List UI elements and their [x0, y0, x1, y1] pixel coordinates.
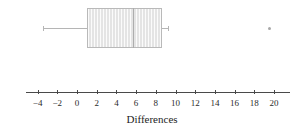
- x-axis-tick: [274, 90, 275, 94]
- x-axis-tick: [116, 90, 117, 94]
- x-axis-tick: [254, 90, 255, 94]
- x-axis-tick: [77, 90, 78, 94]
- x-axis-tick-label: 20: [270, 98, 279, 108]
- x-axis-tick-label: 6: [134, 98, 139, 108]
- x-axis-tick-label: 12: [191, 98, 200, 108]
- x-axis-tick: [57, 90, 58, 94]
- x-axis-tick: [195, 90, 196, 94]
- median-line: [133, 8, 134, 48]
- x-axis-tick: [136, 90, 137, 94]
- x-axis-tick-label: 18: [250, 98, 259, 108]
- outlier-point: [268, 27, 271, 30]
- box-iqr: [87, 8, 162, 48]
- x-axis-line: [26, 92, 290, 93]
- x-axis-tick-label: 4: [114, 98, 119, 108]
- x-axis-tick-label: 2: [94, 98, 99, 108]
- x-axis: −4−202468101214161820 Differences: [0, 86, 304, 136]
- whisker-left: [43, 28, 87, 29]
- whisker-cap-right: [168, 26, 169, 31]
- x-axis-tick-label: −2: [53, 98, 63, 108]
- x-axis-tick-label: 16: [230, 98, 239, 108]
- x-axis-tick: [215, 90, 216, 94]
- x-axis-tick-label: −4: [33, 98, 43, 108]
- whisker-cap-left: [43, 26, 44, 31]
- boxplot-plot-area: [0, 0, 304, 60]
- x-axis-tick-label: 0: [75, 98, 80, 108]
- x-axis-tick: [176, 90, 177, 94]
- x-axis-tick: [156, 90, 157, 94]
- x-axis-title: Differences: [0, 113, 304, 126]
- x-axis-tick-label: 10: [171, 98, 180, 108]
- x-axis-tick-label: 8: [154, 98, 159, 108]
- x-axis-tick-label: 14: [210, 98, 219, 108]
- boxplot-figure: −4−202468101214161820 Differences: [0, 0, 304, 136]
- x-axis-tick: [97, 90, 98, 94]
- x-axis-tick: [235, 90, 236, 94]
- x-axis-tick: [38, 90, 39, 94]
